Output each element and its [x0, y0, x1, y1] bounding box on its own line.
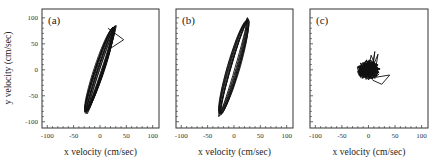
x-tick-label: 0: [232, 132, 236, 140]
x-tick-label: 0: [98, 132, 102, 140]
x-tick-label: 50: [392, 132, 400, 140]
y-tick-label: -100: [25, 118, 38, 126]
x-axis-label: x velocity (cm/sec): [198, 147, 271, 158]
velocity-trajectory: [219, 18, 250, 117]
x-axis-label: x velocity (cm/sec): [64, 147, 137, 158]
y-tick-label: 100: [28, 14, 39, 22]
panel-label: (a): [48, 14, 61, 27]
panel-label: (c): [316, 14, 329, 27]
panel-c: -100-50050100x velocity (cm/sec)(c): [309, 9, 428, 158]
x-tick-label: 0: [367, 132, 371, 140]
panel-b: -100-50050100x velocity (cm/sec)(b): [175, 9, 293, 158]
x-tick-label: 100: [147, 132, 158, 140]
x-tick-label: -50: [203, 132, 213, 140]
x-tick-label: -100: [41, 132, 54, 140]
y-axis-label: y velocity (cm/sec): [3, 32, 14, 105]
x-tick-label: 50: [257, 132, 265, 140]
x-tick-label: 100: [281, 132, 292, 140]
panel-a: -100-50050100-100-50050100x velocity (cm…: [25, 9, 159, 158]
y-tick-label: 0: [35, 66, 39, 74]
x-tick-label: -100: [175, 132, 188, 140]
figure: -100-50050100-100-50050100x velocity (cm…: [0, 0, 438, 165]
x-tick-label: 50: [123, 132, 131, 140]
y-tick-label: 50: [31, 40, 39, 48]
x-tick-label: -50: [337, 132, 347, 140]
velocity-trajectory: [357, 52, 389, 85]
x-axis-label: x velocity (cm/sec): [333, 147, 406, 158]
x-tick-label: -50: [69, 132, 79, 140]
panel-label: (b): [182, 14, 195, 27]
y-tick-label: -50: [29, 92, 39, 100]
velocity-trajectory: [85, 26, 124, 114]
x-tick-label: 100: [416, 132, 427, 140]
x-tick-label: -100: [309, 132, 322, 140]
